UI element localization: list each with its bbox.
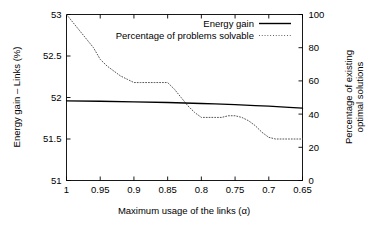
y-left-tick-label: 53 xyxy=(51,9,62,20)
x-tick-label: 0.85 xyxy=(158,184,177,195)
legend-label-energy-gain: Energy gain xyxy=(203,18,254,29)
y-axis-right-tick-labels: 020406080100 xyxy=(309,9,325,186)
y-axis-left-tick-labels: 5151.55252.553 xyxy=(43,9,62,186)
chart-legend: Energy gain Percentage of problems solva… xyxy=(116,18,291,41)
y-left-tick-label: 52.5 xyxy=(43,50,62,61)
y-left-tick-label: 51.5 xyxy=(43,133,62,144)
y-axis-left-ticks xyxy=(67,15,71,181)
x-tick-label: 1 xyxy=(64,184,69,195)
y-right-tick-label: 60 xyxy=(309,75,320,86)
x-tick-label: 0.7 xyxy=(262,184,275,195)
x-tick-label: 0.8 xyxy=(195,184,208,195)
x-axis-title: Maximum usage of the links (α) xyxy=(118,205,250,216)
chart-canvas: 10.950.90.850.80.750.70.65 5151.55252.55… xyxy=(0,0,381,229)
y-right-tick-label: 80 xyxy=(309,42,320,53)
x-axis-tick-labels: 10.950.90.850.80.750.70.65 xyxy=(64,184,312,195)
y-right-tick-label: 0 xyxy=(309,175,314,186)
x-tick-label: 0.9 xyxy=(127,184,140,195)
y-axis-right-title-line2: optimal solutions xyxy=(354,61,365,132)
legend-label-percentage-of-problems-solvable: Percentage of problems solvable xyxy=(116,30,254,41)
x-tick-label: 0.75 xyxy=(226,184,245,195)
chart-figure: 10.950.90.850.80.750.70.65 5151.55252.55… xyxy=(0,0,381,229)
y-axis-right-title-line1: Percentage of existing xyxy=(343,50,354,144)
y-right-tick-label: 40 xyxy=(309,109,320,120)
x-tick-label: 0.95 xyxy=(91,184,110,195)
y-left-tick-label: 52 xyxy=(51,92,62,103)
y-right-tick-label: 100 xyxy=(309,9,325,20)
y-left-tick-label: 51 xyxy=(51,175,62,186)
y-axis-right-ticks xyxy=(299,15,303,181)
y-right-tick-label: 20 xyxy=(309,142,320,153)
y-axis-left-title: Energy gain – Links (%) xyxy=(11,47,22,148)
